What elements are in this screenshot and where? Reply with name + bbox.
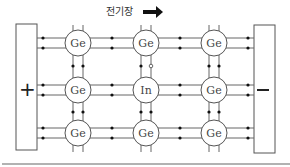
positive-plate: + <box>16 24 37 150</box>
negative-plate <box>254 25 275 153</box>
field-label: 전기장 <box>106 6 133 17</box>
atom-r2c1: Ge <box>133 120 159 146</box>
atom-r1c1: In <box>133 77 159 103</box>
field-arrow-icon <box>143 6 163 18</box>
atom-r0c1: Ge <box>133 30 159 56</box>
atom-label: In <box>140 84 151 97</box>
atom-r0c0: Ge <box>65 30 91 56</box>
atom-r1c0: Ge <box>65 77 91 103</box>
atom-r1c2: Ge <box>201 77 227 103</box>
atom-r2c0: Ge <box>65 120 91 146</box>
hole-icon <box>149 64 153 68</box>
atom-label: Ge <box>70 37 85 50</box>
atoms: Ge Ge Ge Ge In Ge Ge Ge Ge <box>65 30 227 146</box>
plate-sign-positive: + <box>19 77 36 101</box>
diagram-canvas: 전기장 + <box>0 0 290 167</box>
atom-label: Ge <box>70 127 85 140</box>
atom-label: Ge <box>138 37 153 50</box>
atom-label: Ge <box>206 37 221 50</box>
minus-sign-icon <box>257 89 269 91</box>
atom-r0c2: Ge <box>201 30 227 56</box>
atom-r2c2: Ge <box>201 120 227 146</box>
atom-label: Ge <box>138 127 153 140</box>
atom-label: Ge <box>70 84 85 97</box>
atom-label: Ge <box>206 127 221 140</box>
atom-label: Ge <box>206 84 221 97</box>
